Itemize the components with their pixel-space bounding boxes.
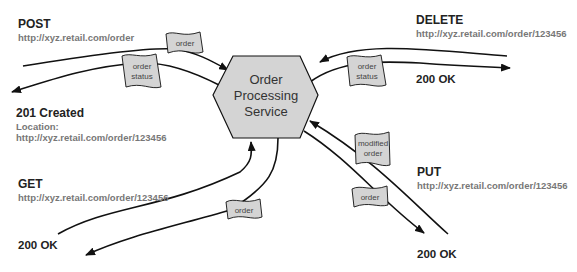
- service-label-line3: Service: [244, 104, 287, 119]
- post-order-status-message: order status: [122, 54, 161, 88]
- svg-text:status: status: [356, 72, 377, 81]
- svg-text:order: order: [133, 62, 152, 71]
- post-status-label: 201 Created: [16, 106, 84, 120]
- get-url-label: http://xyz.retail.com/order/123456: [18, 192, 168, 203]
- svg-text:status: status: [131, 72, 152, 81]
- post-location-label: Location:: [16, 121, 59, 132]
- post-verb-label: POST: [18, 17, 51, 31]
- put-status-label: 200 OK: [417, 248, 457, 260]
- post-url-label: http://xyz.retail.com/order: [18, 32, 134, 43]
- put-url-label: http://xyz.retail.com/order/123456: [417, 180, 567, 191]
- get-order-message: order: [226, 199, 262, 219]
- service-label-line1: Order: [249, 72, 283, 87]
- delete-status-label: 200 OK: [416, 73, 456, 85]
- delete-url-label: http://xyz.retail.com/order/123456: [416, 28, 566, 39]
- get-request-arrow: [58, 142, 251, 234]
- delete-order-status-message: order status: [347, 55, 386, 86]
- put-order-message: order: [352, 186, 388, 207]
- post-response-arrow: [12, 63, 219, 92]
- svg-text:order: order: [364, 149, 383, 158]
- put-modified-order-message: modified order: [355, 132, 390, 166]
- delete-response-arrow: [310, 62, 510, 82]
- service-label-line2: Processing: [234, 88, 298, 103]
- svg-text:order: order: [358, 62, 377, 71]
- svg-text:modified: modified: [358, 139, 388, 148]
- delete-verb-label: DELETE: [416, 13, 463, 27]
- post-location-url: http://xyz.retail.com/order/123456: [16, 132, 166, 143]
- svg-text:order: order: [176, 39, 195, 48]
- post-order-message: order: [166, 32, 203, 53]
- svg-text:order: order: [361, 193, 380, 202]
- put-verb-label: PUT: [417, 165, 441, 179]
- get-verb-label: GET: [18, 177, 43, 191]
- svg-text:order: order: [235, 206, 254, 215]
- get-status-label: 200 OK: [18, 239, 58, 251]
